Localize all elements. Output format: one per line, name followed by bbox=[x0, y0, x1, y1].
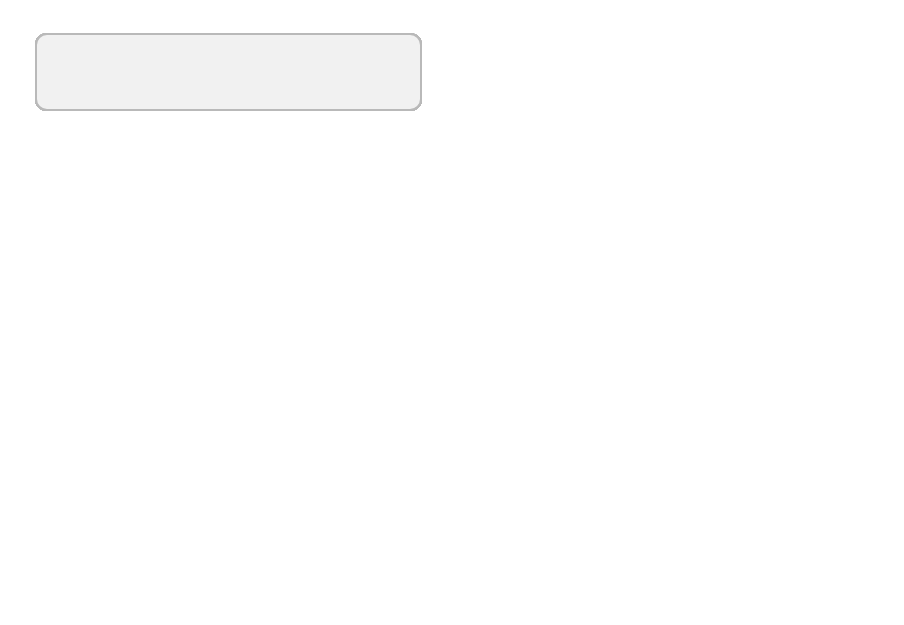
public-policies-row bbox=[35, 33, 422, 111]
